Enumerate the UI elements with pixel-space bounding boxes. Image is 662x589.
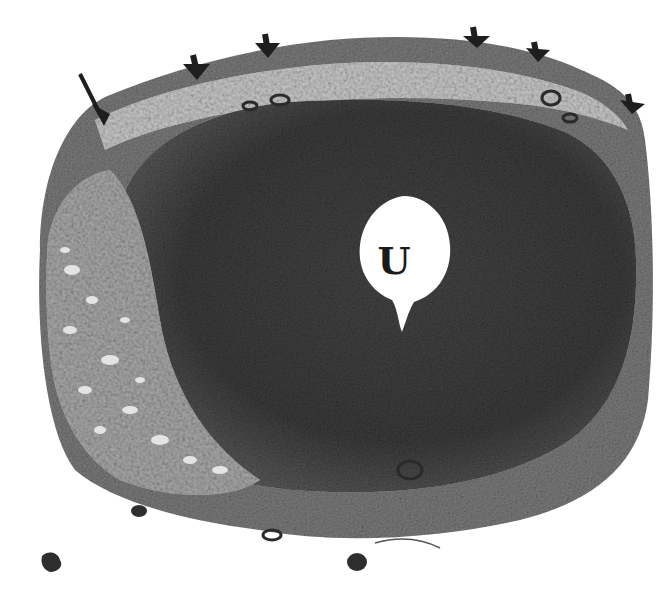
tissue-section [0,0,662,589]
histology-figure: U [0,0,662,589]
lumen-label: U [364,238,424,283]
